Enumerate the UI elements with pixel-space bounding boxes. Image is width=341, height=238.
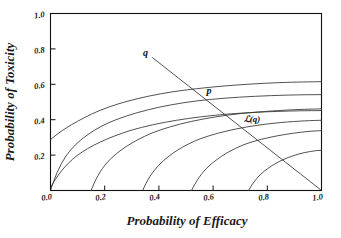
y-tick-label-3: 0.8 [33, 44, 46, 55]
x-axis-title: Probability of Efficacy [126, 213, 247, 228]
chart-figure: q p ℒ(q) 0.0 0.2 0.4 0.6 [0, 0, 341, 238]
contour-curve-7 [249, 150, 322, 190]
annotation-p: p [206, 85, 212, 96]
y-tick-marks [51, 14, 56, 191]
contour-curves [51, 82, 322, 191]
x-tick-labels: 0.0 0.2 0.4 0.6 0.8 1.0 [41, 191, 325, 202]
x-tick-label-2: 0.4 [149, 191, 161, 202]
y-tick-label-4: 1.0 [33, 9, 46, 20]
x-tick-label-3: 0.6 [203, 191, 216, 202]
y-tick-label-0: 0.2 [33, 150, 46, 161]
y-tick-label-1: 0.4 [33, 115, 45, 126]
y-tick-labels: 0.2 0.4 0.6 0.8 1.0 [33, 9, 46, 162]
contour-curve-3 [51, 95, 322, 191]
y-tick-label-2: 0.6 [33, 80, 46, 91]
reference-line-lq [152, 57, 321, 190]
annotation-q: q [143, 47, 148, 58]
efficacy-toxicity-plot: q p ℒ(q) 0.0 0.2 0.4 0.6 [0, 0, 341, 238]
y-axis-title: Probability of Toxicity [2, 42, 17, 161]
contour-curve-4 [91, 109, 321, 191]
x-tick-label-0: 0.0 [41, 191, 54, 202]
x-tick-label-5: 1.0 [312, 191, 325, 202]
x-tick-label-1: 0.2 [95, 191, 108, 202]
annotation-l-of-q: ℒ(q) [244, 114, 261, 124]
x-tick-label-4: 0.8 [258, 191, 271, 202]
